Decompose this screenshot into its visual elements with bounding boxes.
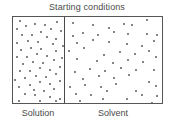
particle <box>103 54 105 56</box>
particle <box>35 75 37 77</box>
particle <box>102 98 104 100</box>
particle <box>33 89 35 91</box>
particle <box>98 75 100 77</box>
particle <box>131 24 133 26</box>
particle <box>20 49 22 51</box>
particle <box>39 67 41 69</box>
particle <box>18 100 20 102</box>
solvent-label: Solvent <box>83 107 143 119</box>
particle <box>59 66 61 68</box>
particle <box>92 24 94 26</box>
particle <box>108 27 110 29</box>
particle <box>36 53 38 55</box>
particle <box>56 21 58 23</box>
particle <box>76 58 78 60</box>
particle <box>18 86 20 88</box>
particle <box>119 51 121 53</box>
particle <box>79 100 81 102</box>
particle <box>16 56 18 58</box>
particle <box>115 83 117 85</box>
particle <box>55 100 57 102</box>
solvent-panel <box>66 17 162 103</box>
particle <box>53 88 55 90</box>
particle <box>69 86 71 88</box>
particle <box>127 59 129 61</box>
particle <box>24 77 26 79</box>
particle <box>113 31 115 33</box>
particle <box>49 96 51 98</box>
particle <box>155 85 157 87</box>
particle <box>52 43 54 45</box>
particle <box>126 43 128 45</box>
particle <box>45 76 47 78</box>
particle <box>92 39 94 41</box>
particle <box>44 24 46 26</box>
particle <box>135 69 137 71</box>
particle <box>74 71 76 73</box>
particle <box>27 40 29 42</box>
particle <box>55 50 57 52</box>
particle <box>62 45 64 47</box>
particle <box>19 70 21 72</box>
particle <box>29 84 31 86</box>
particle <box>100 86 102 88</box>
particle <box>30 47 32 49</box>
particle <box>25 25 27 27</box>
particle <box>142 61 144 63</box>
particle <box>24 93 26 95</box>
solution-panel <box>13 17 65 103</box>
particle <box>76 42 78 44</box>
particle <box>40 31 42 33</box>
particle <box>97 34 99 36</box>
particle <box>55 73 57 75</box>
particle <box>43 90 45 92</box>
particle <box>39 81 41 83</box>
particle <box>21 34 23 36</box>
particle <box>126 98 128 100</box>
particle <box>59 98 61 100</box>
particle <box>22 63 24 65</box>
particle <box>123 23 125 25</box>
particle <box>89 68 91 70</box>
particle <box>49 83 51 85</box>
particle <box>55 38 57 40</box>
particle <box>26 56 28 58</box>
particle <box>37 41 39 43</box>
container-box <box>12 16 163 104</box>
particle <box>108 41 110 43</box>
particle <box>34 23 36 25</box>
particle <box>153 69 155 71</box>
particle <box>14 79 16 81</box>
particle <box>148 81 150 83</box>
particle <box>42 62 44 64</box>
particle <box>156 95 158 97</box>
particle <box>90 94 92 96</box>
particle <box>153 40 155 42</box>
particle <box>31 34 33 36</box>
particle <box>141 45 143 47</box>
osmosis-starting-conditions-figure: Starting conditions Solution Solvent <box>0 0 174 124</box>
particle <box>82 78 84 80</box>
particle <box>75 93 77 95</box>
particle <box>151 102 153 103</box>
particle <box>72 35 74 37</box>
particle <box>39 100 41 102</box>
particle <box>32 61 34 63</box>
particle <box>46 55 48 57</box>
particle <box>19 20 21 22</box>
particle <box>46 36 48 38</box>
particle <box>146 19 148 21</box>
particle <box>96 60 98 62</box>
particle <box>16 28 18 30</box>
particle <box>60 30 62 32</box>
particle <box>120 67 122 69</box>
particle <box>50 28 52 30</box>
particle <box>72 22 74 24</box>
particle <box>34 94 36 96</box>
particle <box>113 77 115 79</box>
particle <box>106 90 108 92</box>
particle <box>29 70 31 72</box>
particle <box>134 53 136 55</box>
particle <box>83 47 85 49</box>
particle <box>141 94 143 96</box>
